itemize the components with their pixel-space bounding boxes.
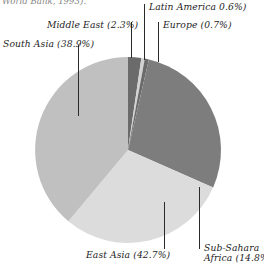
leader-line-sub-sahara-africa xyxy=(199,187,200,249)
leader-line-latin-america xyxy=(144,4,145,60)
label-sub-sahara-africa-line2: Africa (14.8%) xyxy=(204,253,264,264)
leader-line-south-asia xyxy=(78,45,79,116)
pie-slices xyxy=(35,57,221,243)
pie-chart-figure: World Bank, 1993). Latin America 0.6%) E… xyxy=(0,0,264,268)
leader-line-europe xyxy=(158,22,159,62)
label-east-asia: East Asia (42.7%) xyxy=(86,250,170,261)
label-south-asia: South Asia (38.9%) xyxy=(3,39,94,50)
label-latin-america: Latin America 0.6%) xyxy=(149,2,247,13)
leader-line-east-asia xyxy=(164,202,165,249)
label-middle-east: Middle East (2.3%) xyxy=(47,20,138,31)
label-europe: Europe (0.7%) xyxy=(163,20,232,31)
